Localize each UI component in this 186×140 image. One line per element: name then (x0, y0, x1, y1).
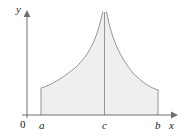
y-axis-label: y (16, 4, 21, 15)
x-axis-arrowhead (171, 112, 178, 119)
tick-label-a: a (39, 120, 45, 131)
shaded-region-area (41, 12, 158, 115)
tick-label-c: c (102, 120, 107, 131)
figure-container: y x 0 a c b (0, 0, 186, 140)
tick-label-b: b (155, 120, 161, 131)
x-axis-label: x (169, 120, 174, 131)
y-axis-arrowhead (24, 10, 31, 17)
origin-label: 0 (20, 119, 26, 130)
